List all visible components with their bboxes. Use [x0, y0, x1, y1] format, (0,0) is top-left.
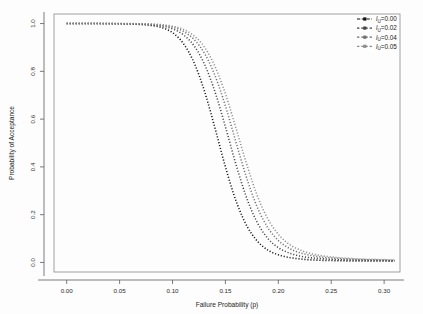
legend-label-0: lU=0.00	[376, 15, 397, 24]
x-tick-label: 0.00	[61, 287, 74, 294]
legend-label-1: lU=0.02	[376, 24, 397, 33]
y-tick-label: 0.6	[29, 114, 36, 123]
series-line-1	[67, 24, 395, 261]
x-tick-label: 0.10	[166, 287, 179, 294]
x-tick-label: 0.30	[378, 287, 391, 294]
x-tick-label: 0.20	[272, 287, 285, 294]
x-tick-label: 0.25	[325, 287, 338, 294]
x-tick-label: 0.05	[114, 287, 127, 294]
y-tick-label: 0.4	[29, 162, 36, 171]
x-axis-title: Failure Probability (p)	[196, 301, 259, 309]
series-line-2	[67, 24, 395, 261]
y-axis-title: Probability of Acceptance	[8, 106, 16, 180]
oc-curve-figure: 0.000.050.100.150.200.250.300.00.20.40.6…	[0, 0, 423, 314]
y-tick-label: 0.2	[29, 210, 36, 219]
legend-label-3: lU=0.05	[376, 43, 397, 52]
y-tick-label: 1.0	[29, 19, 36, 28]
y-tick-label: 0.0	[29, 258, 36, 267]
legend-label-2: lU=0.04	[376, 34, 397, 43]
series-line-0	[67, 24, 395, 262]
legend-marker-3	[363, 45, 366, 48]
legend-marker-1	[363, 27, 366, 30]
plot-box	[54, 14, 400, 272]
legend-marker-0	[363, 17, 366, 20]
chart-canvas: 0.000.050.100.150.200.250.300.00.20.40.6…	[0, 0, 423, 314]
y-tick-label: 0.8	[29, 66, 36, 75]
series-line-3	[67, 24, 395, 260]
x-tick-label: 0.15	[219, 287, 232, 294]
legend-marker-2	[363, 36, 366, 39]
